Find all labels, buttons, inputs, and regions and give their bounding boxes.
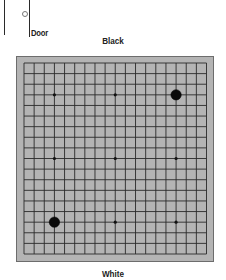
hoshi-point-icon xyxy=(114,221,117,224)
hoshi-point-icon xyxy=(53,93,56,96)
hoshi-point-icon xyxy=(114,157,117,160)
door-line xyxy=(29,0,30,37)
hoshi-point-icon xyxy=(53,157,56,160)
door-knob-icon xyxy=(22,11,28,17)
black-stone-icon[interactable] xyxy=(171,90,181,100)
black-stone-icon[interactable] xyxy=(49,217,59,227)
go-board[interactable] xyxy=(16,56,215,263)
hoshi-point-icon xyxy=(114,93,117,96)
player-label-white: White xyxy=(11,269,214,279)
player-label-black: Black xyxy=(11,36,214,46)
wall-line-left xyxy=(4,0,5,35)
hoshi-point-icon xyxy=(174,221,177,224)
hoshi-point-icon xyxy=(174,157,177,160)
